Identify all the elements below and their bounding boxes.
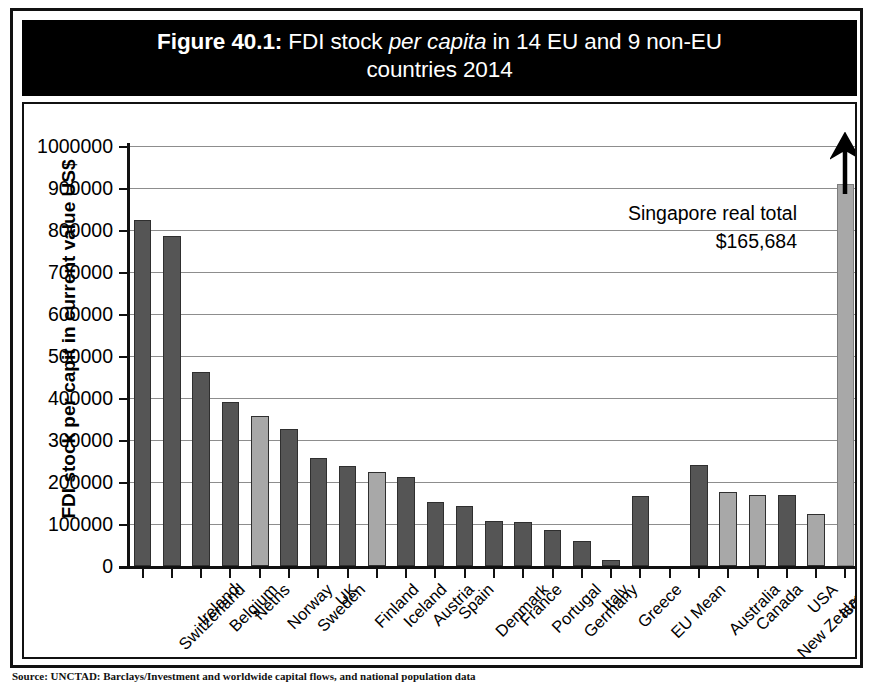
bar-italy bbox=[573, 541, 591, 566]
bar-singapore bbox=[837, 184, 855, 566]
bar-france bbox=[485, 521, 503, 566]
y-tick-label: 400000 bbox=[48, 387, 113, 410]
x-tick-mark bbox=[727, 569, 729, 578]
y-tick-label: 800000 bbox=[48, 219, 113, 242]
x-tick-mark bbox=[171, 569, 173, 578]
y-tick-label: 100000 bbox=[48, 513, 113, 536]
bar-iceland bbox=[368, 472, 386, 566]
x-tick-mark bbox=[757, 569, 759, 578]
x-tick-mark bbox=[200, 569, 202, 578]
gridline bbox=[128, 356, 857, 357]
figure-title: Figure 40.1: FDI stock per capita in 14 … bbox=[157, 28, 722, 84]
x-tick-mark bbox=[347, 569, 349, 578]
x-tick-mark bbox=[698, 569, 700, 578]
figure-title-italic: per capita bbox=[389, 29, 487, 54]
figure-number: Figure 40.1: bbox=[157, 29, 282, 54]
x-tick-mark bbox=[288, 569, 290, 578]
y-tick-label: 900000 bbox=[48, 177, 113, 200]
y-tick-label: 200000 bbox=[48, 471, 113, 494]
gridline bbox=[128, 314, 857, 315]
x-tick-mark bbox=[317, 569, 319, 578]
x-tick-mark bbox=[786, 569, 788, 578]
bar-germany bbox=[544, 530, 562, 566]
bar-israel bbox=[807, 514, 825, 566]
bar-ireland bbox=[163, 236, 181, 566]
bar-usa bbox=[778, 495, 796, 566]
bar-sweden bbox=[280, 429, 298, 566]
x-tick-mark bbox=[464, 569, 466, 578]
plot-area: 0100000200000300000400000500000600000700… bbox=[128, 146, 857, 566]
figure-container: Figure 40.1: FDI stock per capita in 14 … bbox=[10, 8, 863, 668]
gridline bbox=[128, 230, 857, 231]
x-tick-mark bbox=[142, 569, 144, 578]
bar-uk bbox=[310, 458, 328, 566]
y-axis-line bbox=[127, 143, 130, 567]
gridline bbox=[128, 398, 857, 399]
gridline bbox=[128, 146, 857, 147]
bar-new-zealand bbox=[749, 495, 767, 566]
x-tick-mark bbox=[639, 569, 641, 578]
gridline bbox=[128, 272, 857, 273]
bar-finland bbox=[339, 466, 357, 566]
bar-australia bbox=[690, 465, 708, 566]
bar-switzerland bbox=[134, 220, 152, 566]
plot-frame: FDI stock per capit in current value US$… bbox=[22, 102, 857, 659]
y-tick-label: 1000000 bbox=[37, 135, 113, 158]
bar-belgium bbox=[192, 372, 210, 566]
y-tick-label: 700000 bbox=[48, 261, 113, 284]
x-tick-mark bbox=[844, 569, 846, 578]
y-tick-label: 300000 bbox=[48, 429, 113, 452]
x-tick-mark bbox=[434, 569, 436, 578]
y-tick-label: 0 bbox=[102, 555, 113, 578]
truncation-arrow-icon bbox=[830, 132, 857, 202]
y-tick-label: 600000 bbox=[48, 303, 113, 326]
x-tick-mark bbox=[552, 569, 554, 578]
x-tick-mark bbox=[229, 569, 231, 578]
x-tick-mark bbox=[669, 569, 671, 578]
bar-austria bbox=[397, 477, 415, 566]
bar-neths bbox=[222, 402, 240, 566]
source-note: Source: UNCTAD: Barclays/Investment and … bbox=[12, 670, 476, 684]
gridline bbox=[128, 188, 857, 189]
y-tick-label: 500000 bbox=[48, 345, 113, 368]
figure-title-banner: Figure 40.1: FDI stock per capita in 14 … bbox=[22, 20, 857, 96]
x-tick-mark bbox=[522, 569, 524, 578]
x-tick-mark bbox=[581, 569, 583, 578]
figure-title-part1: FDI stock bbox=[282, 29, 388, 54]
x-tick-mark bbox=[376, 569, 378, 578]
bar-denmark bbox=[456, 506, 474, 566]
bar-canada bbox=[719, 492, 737, 566]
x-tick-mark bbox=[259, 569, 261, 578]
x-tick-mark bbox=[815, 569, 817, 578]
bar-eu-mean bbox=[632, 496, 650, 566]
bar-norway bbox=[251, 416, 269, 566]
x-tick-mark bbox=[493, 569, 495, 578]
x-tick-mark bbox=[610, 569, 612, 578]
bar-portugal bbox=[514, 522, 532, 566]
figure-title-line2: countries 2014 bbox=[366, 57, 512, 82]
x-tick-mark bbox=[405, 569, 407, 578]
figure-title-part2: in 14 EU and 9 non-EU bbox=[486, 29, 721, 54]
bar-spain bbox=[427, 502, 445, 566]
